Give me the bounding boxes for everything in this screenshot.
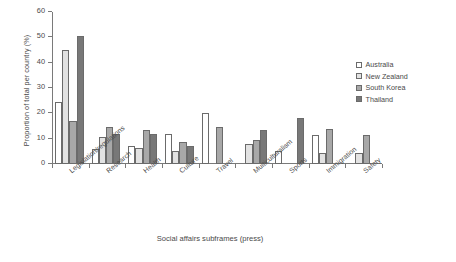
x-tick [235, 164, 236, 168]
y-tick-label: 40 [37, 57, 45, 66]
x-tick [52, 164, 53, 168]
legend-item-label: South Korea [366, 83, 406, 92]
x-axis-title: Social affairs subframes (press) [0, 234, 420, 243]
bar-group [235, 12, 272, 164]
bar [179, 142, 186, 164]
x-tick [162, 164, 163, 168]
bar [326, 129, 333, 164]
bar [245, 144, 252, 164]
y-tick-label: 50 [37, 31, 45, 40]
bar [202, 113, 209, 164]
bar [319, 153, 326, 164]
y-tick-label: 30 [37, 82, 45, 91]
bar [62, 50, 69, 164]
y-tick-label: 60 [37, 6, 45, 15]
bar-group [52, 12, 89, 164]
legend-swatch-icon [356, 73, 362, 79]
legend-swatch-icon [356, 62, 362, 68]
y-tick-label: 0 [41, 158, 45, 167]
bar-chart: Proportion of total per country (%) 0102… [0, 0, 456, 262]
x-tick [345, 164, 346, 168]
bar [143, 130, 150, 164]
legend-item[interactable]: Australia [356, 59, 408, 71]
bar [216, 127, 223, 164]
bar-group [162, 12, 199, 164]
bar [77, 36, 84, 164]
legend-item[interactable]: Thailand [356, 94, 408, 106]
x-tick [272, 164, 273, 168]
y-axis-title: Proportion of total per country (%) [22, 11, 31, 171]
legend-swatch-icon [356, 96, 362, 102]
bar [363, 135, 370, 164]
legend-item[interactable]: New Zealand [356, 71, 408, 83]
bar [355, 153, 362, 164]
bar-group [125, 12, 162, 164]
bar-group [309, 12, 346, 164]
bar [172, 151, 179, 164]
bar-group [199, 12, 236, 164]
legend-item[interactable]: South Korea [356, 82, 408, 94]
legend-swatch-icon [356, 85, 362, 91]
bar [55, 102, 62, 164]
legend-item-label: Australia [366, 60, 394, 69]
bar [135, 148, 142, 164]
x-tick [125, 164, 126, 168]
x-tick [382, 164, 383, 168]
legend: AustraliaNew ZealandSouth KoreaThailand [356, 59, 408, 105]
y-tick-label: 20 [37, 107, 45, 116]
x-tick [309, 164, 310, 168]
y-tick-label: 10 [37, 133, 45, 142]
bar [69, 121, 76, 164]
bar [253, 140, 260, 164]
x-tick [89, 164, 90, 168]
x-tick [199, 164, 200, 168]
bar [312, 135, 319, 164]
legend-item-label: New Zealand [366, 72, 408, 81]
legend-item-label: Thailand [366, 95, 394, 104]
bar [165, 134, 172, 164]
